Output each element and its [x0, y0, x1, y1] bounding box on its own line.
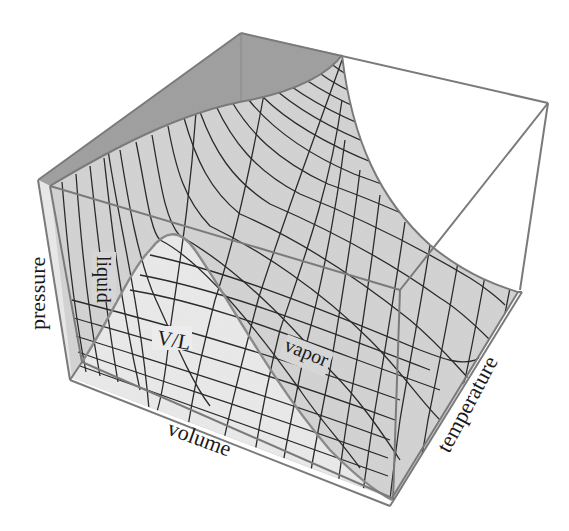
pvt-surface-diagram: pressure volume temperature liquid V/L v…: [0, 0, 569, 531]
region-label-liquid: liquid: [92, 256, 115, 303]
axis-label-pressure: pressure: [25, 257, 50, 330]
